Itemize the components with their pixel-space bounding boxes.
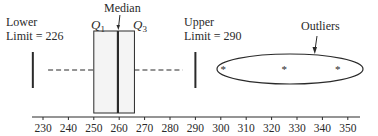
outlier-marker: *: [221, 63, 227, 75]
outliers-ellipse: [217, 54, 363, 84]
x-tick-label: 260: [111, 122, 129, 134]
q1-subscript: 1: [100, 24, 105, 34]
lower-limit-label-line1: Lower: [6, 15, 37, 29]
q3-subscript: 3: [142, 24, 147, 34]
x-tick-label: 310: [238, 122, 256, 134]
upper-limit-label-line2: Limit = 290: [184, 29, 241, 43]
x-tick-label: 250: [85, 122, 103, 134]
median-label: Median: [104, 1, 141, 15]
x-tick-label: 330: [288, 122, 306, 134]
outliers-label: Outliers: [301, 19, 340, 33]
box-plot-diagram: 230240250260270280290300310320330340350 …: [0, 0, 378, 136]
median-arrow-head: [116, 25, 120, 30]
outliers-arrow-head: [313, 47, 318, 54]
lower-limit-label-line2: Limit = 226: [6, 29, 63, 43]
q3-label: Q3: [133, 17, 147, 34]
q1-label: Q1: [91, 17, 105, 34]
x-tick-label: 350: [339, 122, 357, 134]
x-tick-label: 230: [34, 122, 52, 134]
x-tick-label: 340: [314, 122, 332, 134]
iqr-box: [94, 31, 135, 113]
outlier-marker: *: [282, 63, 288, 75]
x-tick-label: 320: [263, 122, 281, 134]
x-tick-label: 280: [161, 122, 179, 134]
x-axis: 230240250260270280290300310320330340350: [32, 117, 360, 134]
upper-limit-label-line1: Upper: [184, 15, 214, 29]
box-plot-svg: 230240250260270280290300310320330340350 …: [0, 0, 378, 136]
x-tick-label: 240: [60, 122, 78, 134]
outlier-marker: *: [335, 63, 341, 75]
x-tick-label: 300: [212, 122, 230, 134]
x-tick-label: 290: [187, 122, 205, 134]
x-tick-label: 270: [136, 122, 154, 134]
